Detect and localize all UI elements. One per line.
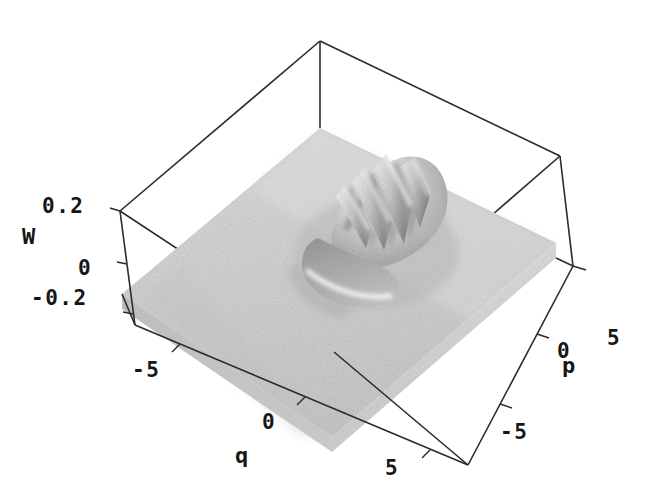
q-tick-mark-5 <box>422 450 430 458</box>
p-axis-tick-label-5: 5 <box>607 328 621 349</box>
p-tick-mark-0 <box>537 334 549 338</box>
q-axis-tick-label-0: 0 <box>262 412 276 433</box>
p-axis-title: p <box>562 355 575 377</box>
figure-canvas: 0.2 0 -0.2 W -5 0 5 q 5 0 -5 p <box>0 0 656 494</box>
z-axis-tick-label-upper: 0.2 <box>42 196 84 217</box>
z-axis-tick-label-lower: -0.2 <box>31 288 88 309</box>
z-tick-mark-0.2 <box>110 208 120 211</box>
p-axis-tick-label--5: -5 <box>500 422 528 443</box>
p-tick-mark-5 <box>573 266 586 270</box>
z-tick-mark-0 <box>117 262 127 264</box>
q-axis-tick-label--5: -5 <box>132 360 160 381</box>
wigner-surface <box>122 128 556 452</box>
z-axis-tick-label-middle: 0 <box>78 258 92 279</box>
p-tick-mark--5 <box>500 404 512 408</box>
z-axis-title: W <box>22 226 35 248</box>
q-axis-tick-label-5: 5 <box>385 458 399 479</box>
q-axis-title: q <box>235 445 248 467</box>
surface-plot-3d <box>0 0 656 494</box>
